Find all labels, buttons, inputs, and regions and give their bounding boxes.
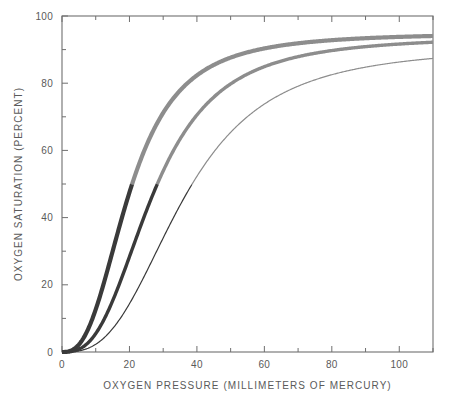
data-curves bbox=[62, 36, 433, 352]
x-tick-label: 60 bbox=[258, 359, 270, 370]
y-tick-label: 20 bbox=[41, 279, 53, 290]
chart-page: 020406080100 020406080100 OXYGEN PRESSUR… bbox=[0, 0, 451, 412]
x-tick-label: 40 bbox=[191, 359, 203, 370]
y-axis-title: OXYGEN SATURATION (PERCENT) bbox=[13, 87, 24, 281]
x-axis-tick-labels: 020406080100 bbox=[59, 359, 408, 370]
curve-1-above-50 bbox=[132, 36, 433, 185]
x-tick-label: 80 bbox=[326, 359, 338, 370]
y-tick-label: 80 bbox=[41, 78, 53, 89]
x-tick-label: 20 bbox=[124, 359, 136, 370]
y-tick-label: 40 bbox=[41, 212, 53, 223]
x-axis-title: OXYGEN PRESSURE (MILLIMETERS OF MERCURY) bbox=[103, 380, 392, 391]
y-axis-minor-ticks bbox=[62, 50, 66, 319]
oxygen-dissociation-chart: 020406080100 020406080100 OXYGEN PRESSUR… bbox=[0, 0, 451, 412]
curve-1-below-50 bbox=[62, 184, 132, 352]
curve-2 bbox=[62, 42, 433, 352]
plot-frame bbox=[62, 16, 433, 352]
x-tick-label: 0 bbox=[59, 359, 65, 370]
y-axis-tick-labels: 020406080100 bbox=[35, 11, 53, 358]
curve-3-above-50 bbox=[192, 58, 433, 184]
curve-3 bbox=[62, 58, 433, 352]
curve-1 bbox=[62, 36, 433, 352]
y-tick-label: 0 bbox=[47, 347, 53, 358]
plot-area-border bbox=[62, 16, 433, 352]
y-tick-label: 100 bbox=[35, 11, 53, 22]
x-tick-label: 100 bbox=[390, 359, 408, 370]
y-tick-label: 60 bbox=[41, 145, 53, 156]
